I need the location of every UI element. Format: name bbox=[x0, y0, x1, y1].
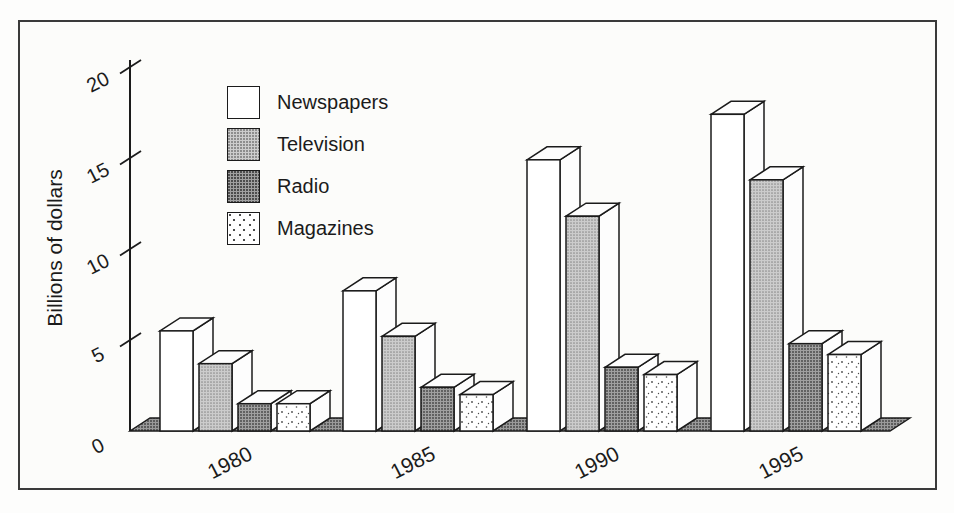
bar-front-face bbox=[789, 344, 822, 431]
bar-front-face bbox=[644, 375, 677, 431]
bar-front-face bbox=[277, 404, 310, 431]
bar-front-face bbox=[160, 331, 193, 431]
x-tick-label-1980: 1980 bbox=[204, 441, 256, 483]
y-tick-label-15: 15 bbox=[83, 158, 113, 188]
legend-label-radio: Radio bbox=[260, 170, 329, 203]
bar-group-1980 bbox=[160, 318, 330, 431]
y-axis-title: Billions of dollars bbox=[42, 138, 68, 358]
bar-front-face bbox=[605, 367, 638, 431]
legend-swatch-television bbox=[227, 128, 260, 161]
legend-label-television: Television bbox=[260, 128, 365, 161]
bar-front-face bbox=[421, 387, 454, 431]
legend-item-magazines: Magazines bbox=[227, 212, 388, 245]
bar-front-face bbox=[343, 291, 376, 431]
y-tick-label-5: 5 bbox=[88, 342, 108, 367]
legend-label-magazines: Magazines bbox=[260, 212, 374, 245]
bar-front-face bbox=[711, 114, 744, 431]
bar-group-1985 bbox=[343, 278, 513, 431]
chart-canvas: 051015201980198519901995 bbox=[0, 0, 954, 513]
chart-figure: 051015201980198519901995 Billions of dol… bbox=[0, 0, 954, 513]
bar-front-face bbox=[199, 364, 232, 431]
bar-front-face bbox=[460, 395, 493, 431]
legend-swatch-magazines bbox=[227, 212, 260, 245]
bar-group-1990 bbox=[527, 147, 697, 431]
x-tick-label-1995: 1995 bbox=[755, 441, 807, 483]
bar-front-face bbox=[527, 160, 560, 431]
bar-magazines-1985 bbox=[460, 382, 513, 431]
bar-magazines-1995 bbox=[828, 342, 881, 431]
bar-front-face bbox=[750, 180, 783, 431]
legend-item-newspapers: Newspapers bbox=[227, 86, 388, 119]
bar-front-face bbox=[382, 336, 415, 431]
bar-side-face bbox=[861, 342, 881, 431]
bar-front-face bbox=[238, 404, 271, 431]
bar-front-face bbox=[828, 355, 861, 431]
legend-label-newspapers: Newspapers bbox=[260, 86, 388, 119]
legend-item-radio: Radio bbox=[227, 170, 388, 203]
x-tick-label-1985: 1985 bbox=[387, 441, 439, 483]
legend: Newspapers Television Radio Magazines bbox=[227, 86, 388, 254]
legend-swatch-newspapers bbox=[227, 86, 260, 119]
bar-magazines-1990 bbox=[644, 362, 697, 431]
bar-front-face bbox=[566, 216, 599, 431]
legend-swatch-radio bbox=[227, 170, 260, 203]
y-tick-label-20: 20 bbox=[83, 67, 113, 97]
bar-group-1995 bbox=[711, 101, 881, 431]
legend-item-television: Television bbox=[227, 128, 388, 161]
x-tick-label-1990: 1990 bbox=[571, 441, 623, 483]
y-tick-label-10: 10 bbox=[83, 249, 113, 279]
y-tick-label-0: 0 bbox=[88, 433, 108, 458]
